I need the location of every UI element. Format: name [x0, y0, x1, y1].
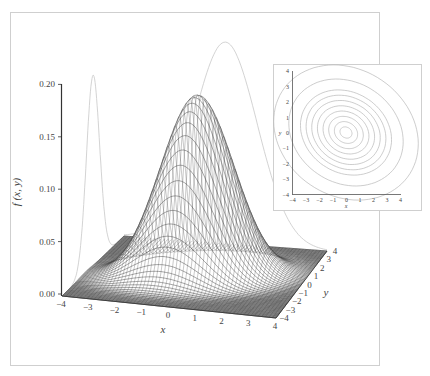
x-tick-label: 1	[193, 313, 198, 323]
x-tick-label: 3	[246, 318, 251, 328]
y-tick-label: 4	[333, 246, 338, 256]
z-tick-label: 0.00	[39, 289, 55, 299]
x-tick-label: −3	[83, 302, 93, 312]
x-tick-label: −1	[136, 307, 146, 317]
x-axis-label: x	[160, 323, 166, 335]
inset-x-tick-label: 1	[359, 197, 362, 203]
x-tick-label: 0	[166, 310, 171, 320]
figure: 0.000.050.100.150.20 f (x, y) −4−3−2−101…	[0, 0, 430, 376]
inset-x-tick-label: 2	[372, 197, 375, 203]
inset-y-tick-label: −4	[283, 192, 289, 198]
y-axis-label: y	[323, 286, 329, 298]
figure-canvas: 0.000.050.100.150.20 f (x, y) −4−3−2−101…	[0, 0, 430, 376]
y-tick-label: 2	[320, 263, 325, 273]
inset-x-axis-label: x	[344, 203, 348, 209]
x-tick-label: 4	[273, 321, 278, 331]
inset-y-tick-label: 0	[286, 130, 289, 136]
z-tick-label: 0.15	[39, 132, 55, 142]
z-tick-label: 0.10	[39, 184, 55, 194]
z-axis-label: f (x, y)	[10, 177, 23, 206]
inset-y-axis-label: y	[278, 130, 282, 136]
inset-x-tick-label: 4	[399, 197, 402, 203]
inset-x-tick-label: −1	[330, 197, 336, 203]
y-tick-label: 1	[314, 271, 319, 281]
x-tick-label: −4	[56, 299, 66, 309]
inset-frame	[274, 65, 422, 211]
inset-y-tick-label: −2	[283, 161, 289, 167]
inset-y-tick-label: 1	[286, 115, 289, 121]
x-tick-label: 2	[219, 316, 224, 326]
inset-x-tick-label: −4	[289, 197, 295, 203]
inset-y-tick-label: −3	[283, 176, 289, 182]
inset-y-tick-label: −1	[283, 145, 289, 151]
x-tick-label: −2	[110, 305, 120, 315]
y-tick-label: 3	[326, 254, 331, 264]
inset-x-tick-label: 3	[386, 197, 389, 203]
inset-y-tick-label: 3	[286, 84, 289, 90]
inset-contour-plot: −4−3−2−101234−4−3−2−101234 x y	[274, 65, 422, 211]
inset-x-tick-label: −3	[303, 197, 309, 203]
y-tick-label: 0	[307, 280, 312, 290]
z-tick-label: 0.05	[39, 237, 55, 247]
inset-x-tick-label: −2	[316, 197, 322, 203]
inset-y-tick-label: 4	[286, 68, 289, 74]
z-tick-label: 0.20	[39, 79, 55, 89]
inset-y-tick-label: 2	[286, 99, 289, 105]
